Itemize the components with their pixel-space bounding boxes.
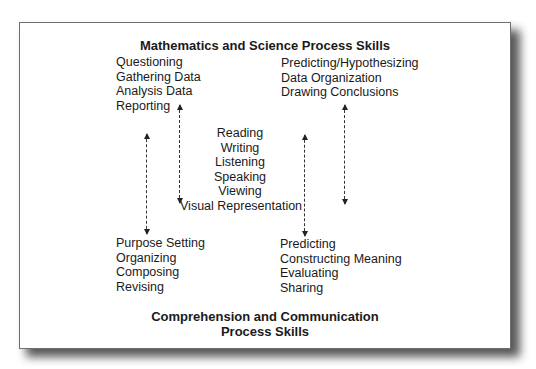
list-item: Predicting (280, 237, 402, 252)
list-item: Purpose Setting (116, 236, 205, 251)
diagram-card: Mathematics and Science Process Skills Q… (19, 22, 511, 349)
list-item: Questioning (116, 55, 201, 70)
list-item: Writing (180, 141, 300, 156)
top-title: Mathematics and Science Process Skills (20, 38, 510, 53)
list-item: Listening (180, 155, 300, 170)
double-arrow-icon (304, 135, 305, 236)
list-item: Reporting (116, 99, 201, 114)
center-list: Reading Writing Listening Speaking Viewi… (180, 126, 300, 214)
list-item: Analysis Data (116, 84, 201, 99)
list-item: Organizing (116, 251, 205, 266)
double-arrow-icon (344, 105, 345, 204)
list-item: Viewing (180, 184, 300, 199)
bottom-left-list: Purpose Setting Organizing Composing Rev… (116, 236, 205, 294)
list-item: Visual Representation (180, 199, 300, 214)
double-arrow-icon (146, 134, 147, 234)
top-right-list: Predicting/Hypothesizing Data Organizati… (281, 56, 419, 100)
list-item: Revising (116, 280, 205, 295)
list-item: Predicting/Hypothesizing (281, 56, 419, 71)
top-left-list: Questioning Gathering Data Analysis Data… (116, 55, 201, 113)
bottom-right-list: Predicting Constructing Meaning Evaluati… (280, 237, 402, 295)
list-item: Gathering Data (116, 70, 201, 85)
list-item: Composing (116, 265, 205, 280)
bottom-title-line2: Process Skills (20, 324, 510, 339)
bottom-title-line1: Comprehension and Communication (20, 309, 510, 324)
list-item: Speaking (180, 170, 300, 185)
list-item: Constructing Meaning (280, 252, 402, 267)
double-arrow-icon (179, 105, 180, 203)
list-item: Sharing (280, 281, 402, 296)
list-item: Reading (180, 126, 300, 141)
list-item: Evaluating (280, 266, 402, 281)
list-item: Drawing Conclusions (281, 85, 419, 100)
list-item: Data Organization (281, 71, 419, 86)
